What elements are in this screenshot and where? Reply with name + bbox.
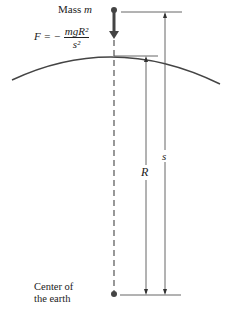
distance-arrowhead-top — [163, 12, 167, 18]
center-dot — [111, 291, 117, 297]
earth-surface-arc — [12, 57, 220, 84]
center-of-earth-label: Center of the earth — [34, 281, 73, 305]
mass-label-text: Mass — [58, 3, 81, 15]
force-denominator: s² — [64, 38, 89, 50]
force-fraction: mgR² s² — [64, 25, 89, 50]
distance-arrowhead-bottom — [163, 289, 167, 295]
radius-label: R — [141, 165, 148, 180]
force-lhs: F = − — [34, 30, 61, 42]
radius-arrowhead-bottom — [144, 289, 148, 295]
force-equation: F = − mgR² s² — [34, 25, 89, 50]
distance-label: s — [162, 150, 166, 162]
force-arrowhead — [109, 31, 119, 39]
center-label-line2: the earth — [34, 293, 73, 305]
mass-variable: m — [84, 3, 92, 15]
center-label-line1: Center of — [34, 281, 73, 293]
force-numerator: mgR² — [64, 25, 89, 38]
mass-label: Mass m — [58, 3, 92, 15]
